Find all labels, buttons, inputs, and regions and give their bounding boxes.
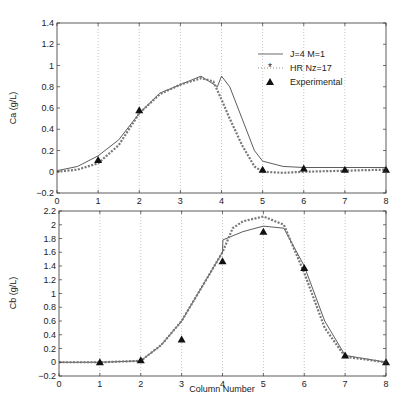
legend: J=4 M=1 * HR Nz=17 Experimental xyxy=(258,49,343,87)
y-tick-label: 0.4 xyxy=(43,330,56,340)
x-tick-label: 8 xyxy=(383,379,388,389)
top-plot: 012345678−0.200.20.40.60.811.21.4 xyxy=(36,18,390,206)
experimental-marker xyxy=(300,165,308,172)
y-tick-label: −0.2 xyxy=(36,188,54,198)
x-tick-label: 5 xyxy=(260,196,265,206)
y-tick-label: 2 xyxy=(51,220,56,230)
y-tick-label: 0 xyxy=(49,167,54,177)
triangle-marker-icon xyxy=(266,78,274,85)
x-tick-label: 6 xyxy=(302,379,307,389)
series-line xyxy=(59,226,386,362)
y-tick-label: 1 xyxy=(51,289,56,299)
y-tick-label: 1 xyxy=(49,61,54,71)
x-tick-label: 0 xyxy=(54,196,59,206)
y-tick-label: −0.2 xyxy=(38,371,56,381)
x-tick-label: 2 xyxy=(137,196,142,206)
legend-label-jm: J=4 M=1 xyxy=(290,49,325,59)
y-tick-label: 0.6 xyxy=(43,316,56,326)
y-tick-label: 1.6 xyxy=(43,247,56,257)
y-tick-label: 0.8 xyxy=(41,82,54,92)
y-tick-label: 1.8 xyxy=(43,234,56,244)
legend-label-experimental: Experimental xyxy=(290,77,343,87)
y-tick-label: 0.2 xyxy=(41,146,54,156)
x-tick-label: 2 xyxy=(138,379,143,389)
y-tick-label: 1.4 xyxy=(43,261,56,271)
y-tick-label: 1.2 xyxy=(41,39,54,49)
x-tick-label: 1 xyxy=(96,196,101,206)
bottom-x-axis-label: Column Number xyxy=(189,384,255,394)
experimental-marker xyxy=(259,166,267,173)
x-tick-label: 7 xyxy=(342,196,347,206)
x-tick-label: 7 xyxy=(343,379,348,389)
experimental-marker xyxy=(219,257,227,264)
figure: 012345678−0.200.20.40.60.811.21.4 012345… xyxy=(0,0,409,418)
experimental-marker xyxy=(178,336,186,343)
y-tick-label: 1.2 xyxy=(43,275,56,285)
y-tick-label: 0.2 xyxy=(43,344,56,354)
top-y-axis-label: Ca (g/L) xyxy=(8,92,18,125)
bottom-plot: 012345678−0.200.20.40.60.811.21.41.61.82… xyxy=(38,206,390,389)
x-tick-label: 4 xyxy=(219,196,224,206)
svg-text:*: * xyxy=(268,62,272,73)
y-tick-label: 1.4 xyxy=(41,18,54,28)
x-tick-label: 8 xyxy=(383,196,388,206)
x-tick-label: 3 xyxy=(178,196,183,206)
y-tick-label: 0.4 xyxy=(41,124,54,134)
x-tick-label: 1 xyxy=(97,379,102,389)
x-tick-label: 0 xyxy=(56,379,61,389)
experimental-marker xyxy=(259,228,267,235)
x-tick-label: 6 xyxy=(301,196,306,206)
y-tick-label: 2.2 xyxy=(43,206,56,216)
legend-label-hr: HR Nz=17 xyxy=(290,63,332,73)
y-tick-label: 0.6 xyxy=(41,103,54,113)
bottom-y-axis-label: Cb (g/L) xyxy=(8,277,18,310)
y-tick-label: 0 xyxy=(51,357,56,367)
x-tick-label: 5 xyxy=(261,379,266,389)
y-tick-label: 0.8 xyxy=(43,302,56,312)
experimental-marker xyxy=(341,166,349,173)
x-tick-label: 3 xyxy=(179,379,184,389)
